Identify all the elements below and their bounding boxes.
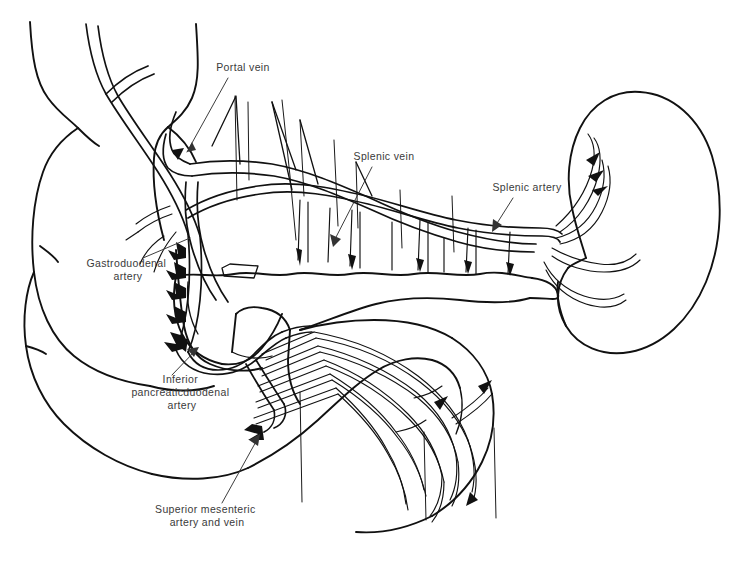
anatomy-illustration: Portal vein Splenic vein Splenic artery: [0, 0, 738, 565]
label-splenic-vein-text: Splenic vein: [354, 150, 415, 162]
label-splenic-artery-text: Splenic artery: [492, 181, 561, 193]
label-sma-smv-text: Superior mesenteric artery and vein: [155, 503, 259, 528]
label-portal-vein-text: Portal vein: [216, 61, 269, 73]
anatomical-figure: Portal vein Splenic vein Splenic artery: [0, 0, 738, 565]
figure-background: [0, 0, 738, 565]
